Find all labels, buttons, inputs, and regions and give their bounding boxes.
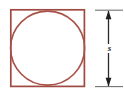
arrowhead-down-icon bbox=[106, 78, 112, 87]
geometry-figure: s bbox=[0, 0, 124, 98]
arrowhead-up-icon bbox=[106, 11, 112, 20]
side-length-label: s bbox=[103, 44, 116, 53]
inscribed-circle-shape bbox=[11, 11, 85, 85]
